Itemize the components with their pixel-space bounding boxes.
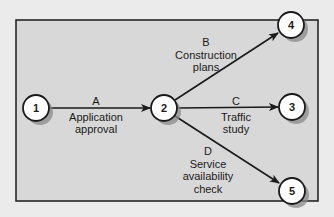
activity-d-label: D Service availability check (183, 145, 234, 195)
activity-d-line3: check (183, 183, 234, 196)
activity-b-line1: Construction (175, 49, 237, 62)
activity-d-line2: availability (183, 170, 234, 183)
activity-a-line2: approval (69, 123, 123, 136)
activity-d-letter: D (183, 145, 234, 158)
activity-c-letter: C (221, 95, 251, 108)
activity-b-letter: B (175, 36, 237, 49)
activity-a-letter: A (69, 95, 123, 108)
activity-c-label: C Traffic study (221, 95, 251, 136)
node-2-label: 2 (151, 95, 177, 121)
node-1-label: 1 (23, 95, 49, 121)
activity-c-line1: Traffic (221, 111, 251, 124)
activity-d-line1: Service (183, 158, 234, 171)
activity-a-line1: Application (69, 111, 123, 124)
activity-a-label: A Application approval (69, 95, 123, 136)
node-4-label: 4 (278, 12, 304, 38)
activity-b-label: B Construction plans (175, 36, 237, 74)
node-3-label: 3 (279, 94, 305, 120)
activity-b-line2: plans (175, 61, 237, 74)
activity-c-line2: study (221, 123, 251, 136)
node-5-label: 5 (279, 178, 305, 204)
